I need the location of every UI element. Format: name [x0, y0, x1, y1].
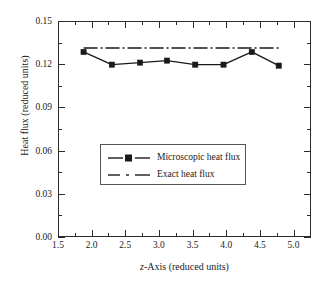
x-tick-minor-top	[75, 21, 76, 25]
legend-box: Microscopic heat flux Exact heat flux	[100, 144, 246, 185]
y-tick-major	[58, 237, 65, 238]
x-tick-minor-top	[277, 21, 278, 25]
y-tick-minor	[58, 215, 62, 216]
x-tick-minor-top	[108, 21, 109, 25]
x-tick-major-top	[125, 21, 126, 28]
y-tick-minor-right	[307, 129, 311, 130]
x-tick-minor-top	[209, 21, 210, 25]
legend-key-line-square-marker	[107, 152, 151, 164]
chart-figure: 0.000.030.060.090.120.151.52.02.53.03.54…	[0, 0, 333, 284]
legend-item-microscopic: Microscopic heat flux	[107, 149, 239, 166]
x-tick-major	[260, 230, 261, 237]
x-tick-major-top	[260, 21, 261, 28]
x-tick-major	[58, 230, 59, 237]
x-tick-label: 5.0	[274, 240, 314, 250]
x-tick-minor-top	[243, 21, 244, 25]
legend-label-microscopic: Microscopic heat flux	[157, 152, 240, 163]
y-tick-major-right	[304, 237, 311, 238]
x-tick-minor	[75, 233, 76, 237]
x-tick-major	[92, 230, 93, 237]
x-tick-minor-top	[176, 21, 177, 25]
y-tick-major-right	[304, 64, 311, 65]
x-tick-minor	[277, 233, 278, 237]
x-tick-major	[193, 230, 194, 237]
y-tick-major	[58, 64, 65, 65]
x-tick-minor	[108, 233, 109, 237]
x-tick-major-top	[159, 21, 160, 28]
x-tick-major-top	[58, 21, 59, 28]
plot-area-frame	[58, 21, 311, 237]
x-tick-minor	[176, 233, 177, 237]
x-tick-major-top	[226, 21, 227, 28]
legend-item-exact: Exact heat flux	[107, 166, 239, 183]
x-tick-minor-top	[310, 21, 311, 25]
x-tick-minor	[209, 233, 210, 237]
y-tick-minor-right	[307, 172, 311, 173]
x-axis-title: z-Axis (reduced units)	[58, 261, 311, 272]
x-tick-minor-top	[142, 21, 143, 25]
x-tick-major	[159, 230, 160, 237]
y-tick-major-right	[304, 151, 311, 152]
y-tick-major	[58, 151, 65, 152]
y-axis-title: Heat flux (reduced units)	[19, 16, 30, 196]
y-tick-minor-right	[307, 215, 311, 216]
x-tick-major-top	[294, 21, 295, 28]
y-tick-major-right	[304, 194, 311, 195]
x-tick-minor	[243, 233, 244, 237]
legend-key-dash-dot-line	[107, 169, 151, 181]
y-tick-major-right	[304, 107, 311, 108]
x-tick-major	[294, 230, 295, 237]
y-tick-major	[58, 21, 65, 22]
y-tick-minor-right	[307, 43, 311, 44]
x-tick-minor	[310, 233, 311, 237]
y-tick-minor	[58, 172, 62, 173]
x-tick-minor	[142, 233, 143, 237]
y-tick-minor-right	[307, 86, 311, 87]
x-axis-title-rest: -Axis (reduced units)	[144, 261, 229, 272]
x-tick-major	[226, 230, 227, 237]
y-tick-major	[58, 194, 65, 195]
legend-label-exact: Exact heat flux	[157, 169, 215, 180]
y-tick-major	[58, 107, 65, 108]
y-tick-minor	[58, 86, 62, 87]
x-tick-major	[125, 230, 126, 237]
y-tick-minor	[58, 129, 62, 130]
x-tick-major-top	[193, 21, 194, 28]
x-tick-major-top	[92, 21, 93, 28]
y-tick-minor	[58, 43, 62, 44]
